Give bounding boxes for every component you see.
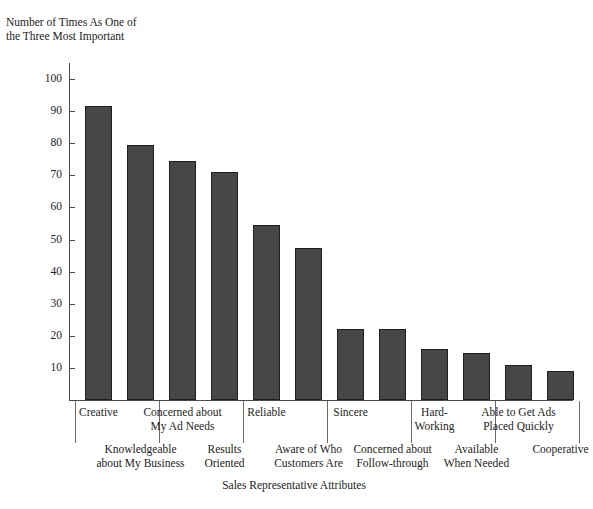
- y-tick-label: 100: [22, 72, 62, 84]
- category-label: Able to Get Ads Placed Quickly: [474, 406, 564, 433]
- x-axis-line: [69, 400, 573, 401]
- category-label: Aware of Who Customers Are: [264, 443, 354, 470]
- y-tick-label: 60: [22, 200, 62, 212]
- category-label: Concerned about Follow-through: [348, 443, 438, 470]
- y-tick-label: 10: [22, 361, 62, 373]
- bar: [253, 225, 280, 400]
- bar: [127, 145, 154, 400]
- bar: [337, 329, 364, 400]
- x-axis-title: Sales Representative Attributes: [0, 479, 588, 491]
- y-tick-label: 70: [22, 168, 62, 180]
- y-tick-label: 80: [22, 136, 62, 148]
- bar: [463, 353, 490, 400]
- category-label: Concerned about My Ad Needs: [138, 406, 228, 433]
- bar: [421, 349, 448, 400]
- y-tick-mark: [69, 336, 75, 337]
- bar: [169, 161, 196, 400]
- y-axis-line: [69, 63, 70, 401]
- bar: [211, 172, 238, 400]
- bar: [547, 371, 574, 400]
- category-label: Reliable: [222, 406, 312, 420]
- y-tick-mark: [69, 368, 75, 369]
- y-tick-mark: [69, 304, 75, 305]
- y-tick-mark: [69, 143, 75, 144]
- y-tick-mark: [69, 272, 75, 273]
- y-tick-label: 90: [22, 104, 62, 116]
- y-tick-label: 30: [22, 297, 62, 309]
- y-tick-mark: [69, 111, 75, 112]
- y-tick-mark: [69, 207, 75, 208]
- bar: [505, 365, 532, 400]
- bar: [379, 329, 406, 400]
- bar: [85, 106, 112, 400]
- y-tick-label: 50: [22, 233, 62, 245]
- category-label: Available When Needed: [432, 443, 522, 470]
- category-label: Sincere: [306, 406, 396, 420]
- category-label: Results Oriented: [180, 443, 270, 470]
- y-tick-mark: [69, 240, 75, 241]
- y-tick-label: 20: [22, 329, 62, 341]
- y-tick-mark: [69, 79, 75, 80]
- category-label: Cooperative: [516, 443, 593, 457]
- bar: [295, 248, 322, 400]
- y-axis-title: Number of Times As One of the Three Most…: [6, 16, 137, 43]
- category-separator: [579, 401, 580, 443]
- y-tick-label: 40: [22, 265, 62, 277]
- y-tick-mark: [69, 175, 75, 176]
- category-label: Knowledgeable about My Business: [96, 443, 186, 470]
- category-label: Hard- Working: [390, 406, 480, 433]
- category-label: Creative: [54, 406, 144, 420]
